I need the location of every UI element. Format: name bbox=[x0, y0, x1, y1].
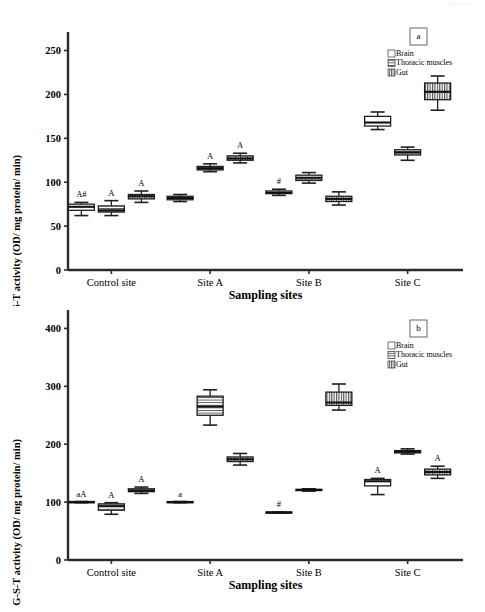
legend-item: Brain bbox=[388, 341, 414, 350]
boxplot-box bbox=[197, 164, 223, 172]
legend-label: Brain bbox=[396, 341, 414, 350]
plot-area-b: 0100200300400G-S-T activity (OD/ mg prot… bbox=[0, 306, 485, 612]
legend-swatch bbox=[388, 352, 395, 359]
boxplot-svg-a: 050100150200250G-S-T activity (OD/ mg pr… bbox=[0, 0, 485, 306]
significance-annotation: A bbox=[138, 178, 145, 188]
boxplot-box bbox=[167, 502, 193, 503]
x-tick-label: Site A bbox=[197, 567, 223, 578]
y-tick-label: 300 bbox=[45, 381, 61, 392]
y-tick-label: 200 bbox=[45, 439, 61, 450]
x-axis-title: Sampling sites bbox=[229, 288, 303, 302]
legend-label: Thoracic muscles bbox=[396, 350, 452, 359]
panel-label: a bbox=[417, 31, 421, 41]
significance-annotation: A bbox=[207, 151, 214, 161]
y-tick-label: 200 bbox=[45, 89, 61, 100]
significance-annotation: A bbox=[435, 453, 442, 463]
legend-item: Gut bbox=[388, 360, 409, 369]
legend-swatch bbox=[388, 361, 395, 368]
legend-label: Gut bbox=[396, 68, 409, 77]
boxplot-box bbox=[98, 201, 124, 216]
x-tick-label: Control site bbox=[87, 277, 137, 288]
significance-annotation: # bbox=[277, 499, 282, 509]
boxplot-box bbox=[326, 384, 352, 410]
significance-annotation: a bbox=[178, 489, 182, 499]
legend-swatch bbox=[388, 69, 395, 76]
y-tick-label: 400 bbox=[45, 323, 61, 334]
boxplot-box bbox=[68, 202, 94, 215]
legend-item: Gut bbox=[388, 68, 409, 77]
significance-annotation: A bbox=[375, 465, 382, 475]
boxplot-box bbox=[266, 189, 292, 195]
significance-annotation: A bbox=[237, 140, 244, 150]
y-axis-title: G-S-T activity (OD/ mg protein/ min) bbox=[11, 439, 23, 606]
y-axis-title: G-S-T activity (OD/ mg protein/ min) bbox=[11, 155, 23, 306]
y-tick-label: 250 bbox=[45, 45, 61, 56]
boxplot-box bbox=[395, 147, 421, 160]
x-tick-label: Site C bbox=[395, 567, 421, 578]
y-tick-label: 100 bbox=[45, 177, 61, 188]
boxplot-box bbox=[395, 449, 421, 454]
boxplot-box bbox=[167, 195, 193, 202]
legend-label: Thoracic muscles bbox=[396, 58, 452, 67]
boxplot-box bbox=[98, 503, 124, 515]
boxplot-box bbox=[128, 487, 154, 493]
x-tick-label: Control site bbox=[87, 567, 137, 578]
boxplot-box bbox=[128, 191, 154, 202]
legend-swatch bbox=[388, 60, 395, 67]
legend-item: Thoracic muscles bbox=[388, 58, 452, 67]
boxplot-box bbox=[68, 502, 94, 503]
boxplot-box bbox=[425, 466, 451, 478]
legend-label: Gut bbox=[396, 360, 409, 369]
significance-annotation: A bbox=[108, 490, 115, 500]
boxplot-box bbox=[227, 453, 253, 465]
legend-label: Brain bbox=[396, 49, 414, 58]
boxplot-box bbox=[365, 112, 391, 130]
box-rect bbox=[365, 116, 391, 126]
y-tick-label: 0 bbox=[56, 265, 61, 276]
significance-annotation: A# bbox=[76, 189, 87, 199]
significance-annotation: A bbox=[138, 474, 145, 484]
boxplot-box bbox=[425, 76, 451, 110]
boxplot-box bbox=[197, 390, 223, 425]
significance-annotation: A bbox=[108, 188, 115, 198]
boxplot-box bbox=[365, 478, 391, 494]
legend-item: Brain bbox=[388, 49, 414, 58]
boxplot-box bbox=[266, 512, 292, 513]
significance-annotation: aA bbox=[76, 489, 87, 499]
panel-label: b bbox=[416, 323, 421, 333]
boxplot-box bbox=[227, 153, 253, 163]
x-tick-label: Site C bbox=[395, 277, 421, 288]
plot-area-a: 050100150200250G-S-T activity (OD/ mg pr… bbox=[0, 0, 485, 306]
y-tick-label: 50 bbox=[51, 221, 62, 232]
chart-panel-a: 050100150200250G-S-T activity (OD/ mg pr… bbox=[0, 0, 485, 306]
y-tick-label: 100 bbox=[45, 497, 61, 508]
y-tick-label: 0 bbox=[56, 555, 61, 566]
legend-item: Thoracic muscles bbox=[388, 350, 452, 359]
boxplot-svg-b: 0100200300400G-S-T activity (OD/ mg prot… bbox=[0, 306, 485, 612]
x-tick-label: Site A bbox=[197, 277, 223, 288]
legend-swatch bbox=[388, 50, 395, 57]
boxplot-box bbox=[326, 192, 352, 205]
boxplot-box bbox=[296, 173, 322, 184]
x-tick-label: Site B bbox=[296, 567, 322, 578]
significance-annotation: # bbox=[277, 176, 282, 186]
chart-panel-b: 0100200300400G-S-T activity (OD/ mg prot… bbox=[0, 306, 485, 612]
boxplot-box bbox=[296, 489, 322, 491]
y-tick-label: 150 bbox=[45, 133, 61, 144]
x-tick-label: Site B bbox=[296, 277, 322, 288]
x-axis-title: Sampling sites bbox=[229, 578, 303, 592]
legend-swatch bbox=[388, 342, 395, 349]
